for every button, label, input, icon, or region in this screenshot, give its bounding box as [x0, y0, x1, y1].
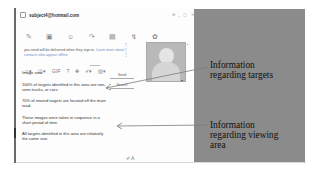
arrow-viewing — [117, 125, 208, 126]
annotation-arrows — [0, 0, 312, 174]
arrow-targets — [106, 67, 208, 88]
